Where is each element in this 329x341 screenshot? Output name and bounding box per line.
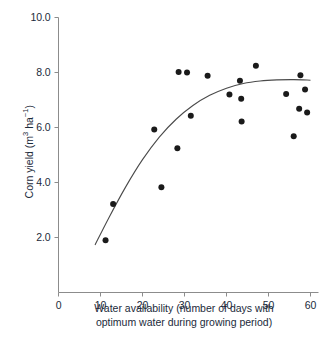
data-point xyxy=(176,69,182,75)
y-tick-label: 2.0 xyxy=(9,231,51,243)
chart-figure: 2.04.06.08.010.0 0102030405060 Corn yiel… xyxy=(0,0,329,341)
data-point xyxy=(291,133,297,139)
x-axis-title-line-2: optimum water during growing period) xyxy=(48,316,320,330)
y-axis-title-mid: ha xyxy=(23,117,35,132)
data-point xyxy=(304,109,310,115)
data-point xyxy=(184,70,190,76)
scatter-plot-canvas xyxy=(0,0,329,341)
data-point xyxy=(297,72,303,78)
y-axis-title-exponent-volume: 3 xyxy=(21,132,30,136)
data-point xyxy=(226,92,232,98)
data-point xyxy=(237,78,243,84)
x-axis-title: Water availability (number of days with … xyxy=(48,302,320,329)
data-point xyxy=(253,63,259,69)
axes xyxy=(59,18,319,293)
data-point xyxy=(239,118,245,124)
data-point xyxy=(296,106,302,112)
data-point xyxy=(302,87,308,93)
data-point xyxy=(151,126,157,132)
data-point xyxy=(103,237,109,243)
data-point xyxy=(238,96,244,102)
data-point xyxy=(174,145,180,151)
y-axis-title-suffix: ) xyxy=(23,105,35,109)
y-axis-title-exponent-area: −1 xyxy=(21,109,30,118)
data-point xyxy=(283,91,289,97)
data-point xyxy=(110,201,116,207)
data-point xyxy=(188,113,194,119)
data-points xyxy=(103,63,311,244)
x-axis-title-line-1: Water availability (number of days with xyxy=(48,302,320,316)
y-axis-title-prefix: Corn yield (m xyxy=(23,136,35,198)
trend-line xyxy=(95,80,310,245)
data-point xyxy=(158,184,164,190)
y-tick-label: 10.0 xyxy=(9,11,51,23)
axis-ticks xyxy=(55,18,311,297)
data-point xyxy=(205,73,211,79)
y-axis-title: Corn yield (m3 ha−1) xyxy=(21,72,35,232)
